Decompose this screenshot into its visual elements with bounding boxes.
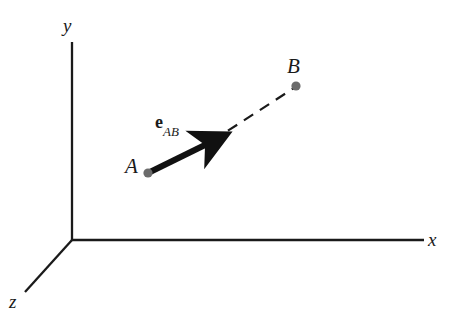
z-axis-label: z xyxy=(9,292,16,311)
diagram-svg xyxy=(0,0,456,319)
z-axis-line xyxy=(25,240,72,292)
point-B-label: B xyxy=(287,56,300,77)
figure-canvas: y x z A B eAB xyxy=(0,0,456,319)
y-axis-label: y xyxy=(63,16,71,35)
vector-eAB-label: eAB xyxy=(155,113,179,135)
point-A-label: A xyxy=(125,156,138,177)
point-B-marker xyxy=(291,81,300,90)
point-A-marker xyxy=(143,168,152,177)
vector-eAB-subscript: AB xyxy=(163,124,179,139)
x-axis-label: x xyxy=(428,230,436,249)
vector-eAB-base: e xyxy=(155,112,163,132)
vector-eAB-arrow xyxy=(149,144,207,173)
dashed-line-AB xyxy=(212,88,294,141)
